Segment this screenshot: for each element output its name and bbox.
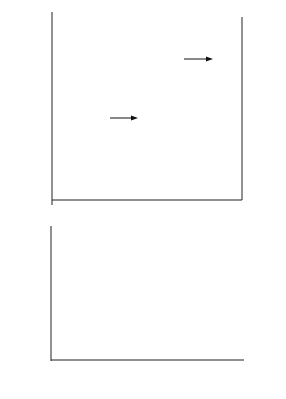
top-panel [52,12,242,205]
chart-canvas [0,0,286,399]
figure [0,0,286,399]
unbound-arrow-icon [184,57,213,62]
total-arrow-icon [110,116,138,121]
bottom-panel [51,226,244,361]
